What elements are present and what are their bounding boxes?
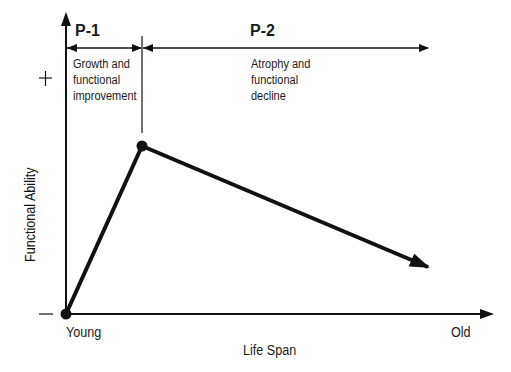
y-axis-label: Functional Ability <box>22 167 38 262</box>
p1-desc-line: Growth and <box>73 56 137 72</box>
phase-p1-label: P-1 <box>75 22 100 40</box>
origin-point <box>61 309 72 320</box>
x-axis-label: Life Span <box>243 342 296 358</box>
peak-point <box>137 141 148 152</box>
x-tick-young: Young <box>66 324 101 340</box>
p2-desc-line: functional <box>251 72 310 88</box>
p2-desc-line: Atrophy and <box>251 56 310 72</box>
growth-line <box>66 146 142 314</box>
p1-desc-line: functional <box>73 72 137 88</box>
phase-p1-description: Growth and functional improvement <box>73 56 137 104</box>
p2-desc-line: decline <box>251 88 310 104</box>
phase-p2-label: P-2 <box>250 22 275 40</box>
x-tick-old: Old <box>451 324 471 340</box>
p1-desc-line: improvement <box>73 88 137 104</box>
decline-line <box>142 146 428 267</box>
phase-p2-description: Atrophy and functional decline <box>251 56 310 104</box>
